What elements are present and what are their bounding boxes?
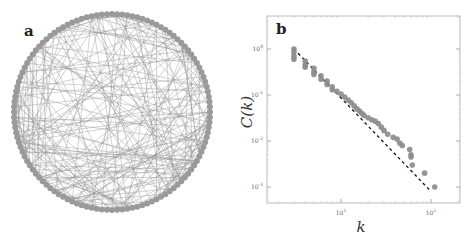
y-tick-label: 10-3 bbox=[251, 182, 263, 190]
y-axis-label: C(k) bbox=[240, 96, 256, 128]
panel-label-b: b bbox=[276, 20, 287, 38]
panel-label-a: a bbox=[24, 22, 34, 40]
x-axis-label: k bbox=[356, 218, 365, 236]
plot-frame bbox=[267, 16, 460, 203]
x-tick-label: 101 bbox=[336, 208, 347, 216]
y-tick-label: 100 bbox=[252, 44, 263, 52]
data-points bbox=[291, 46, 437, 190]
panel-a-network: a bbox=[0, 0, 240, 241]
network-nodes bbox=[11, 11, 213, 213]
panel-b-scatter: b 10110210010-110-210-3kC(k) bbox=[240, 0, 473, 241]
loglog-scatter-plot: 10110210010-110-210-3kC(k) bbox=[240, 0, 473, 241]
x-tick-label: 102 bbox=[426, 208, 437, 216]
y-tick-label: 10-2 bbox=[251, 136, 263, 144]
network-graph bbox=[0, 0, 240, 241]
